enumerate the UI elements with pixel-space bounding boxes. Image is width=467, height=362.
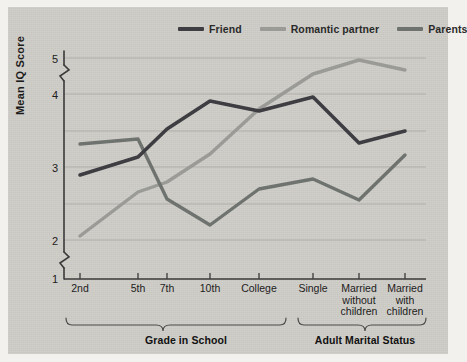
brace-grade-in-school xyxy=(66,318,286,331)
y-axis-break-lower xyxy=(60,252,69,268)
x-label-7th: 7th xyxy=(151,283,183,295)
x-axis-ticks xyxy=(80,273,405,279)
series-line-parents xyxy=(80,139,405,225)
x-label-married-without-children: Marriedwithoutchildren xyxy=(334,283,384,318)
group-label-grade-in-school: Grade in School xyxy=(126,334,246,346)
x-label-married-with-children: Marriedwithchildren xyxy=(380,283,430,318)
group-braces xyxy=(66,318,426,331)
group-label-adult-marital-status: Adult Marital Status xyxy=(302,334,428,346)
x-label-5th: 5th xyxy=(122,283,154,295)
x-label-single: Single xyxy=(290,283,336,295)
series-line-romantic-partner xyxy=(80,60,405,236)
x-label-2nd: 2nd xyxy=(64,283,96,295)
x-label-college: College xyxy=(233,283,285,295)
brace-adult-marital-status xyxy=(298,318,426,331)
y-axis xyxy=(60,51,69,279)
gridlines xyxy=(64,58,426,240)
series-line-friend xyxy=(80,97,405,175)
figure-panel: Friend Romantic partner Parents Mean IQ … xyxy=(8,7,448,354)
y-axis-break-upper xyxy=(60,65,69,81)
x-label-10th: 10th xyxy=(192,283,228,295)
